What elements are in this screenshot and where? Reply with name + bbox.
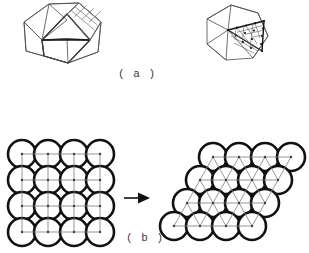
- lattice-node: [73, 153, 75, 155]
- lattice-node: [47, 205, 49, 207]
- lattice-node: [238, 156, 240, 158]
- lattice-node: [21, 153, 23, 155]
- panel-a-polyhedra: [0, 0, 309, 100]
- transformation-arrow: [124, 193, 150, 204]
- lattice-node: [212, 156, 214, 158]
- patterned-face-grid: [67, 3, 101, 40]
- lattice-node: [99, 205, 101, 207]
- panel-label-b: ( b ): [126, 232, 164, 244]
- lattice-node: [251, 179, 253, 181]
- lattice-node: [73, 231, 75, 233]
- lattice-node: [186, 202, 188, 204]
- lattice-node: [21, 179, 23, 181]
- lattice-node: [251, 225, 253, 227]
- icosahedron: [207, 5, 268, 60]
- lattice-node: [264, 156, 266, 158]
- hexagonal-close-packing: [160, 143, 305, 240]
- lattice-node: [47, 231, 49, 233]
- lattice-node: [99, 153, 101, 155]
- lattice-node: [290, 156, 292, 158]
- lattice-node: [212, 202, 214, 204]
- lattice-node: [238, 202, 240, 204]
- lattice-node: [21, 231, 23, 233]
- rhombic-polyhedron: [24, 3, 101, 63]
- lattice-node: [225, 179, 227, 181]
- lattice-node: [99, 179, 101, 181]
- lattice-node: [199, 225, 201, 227]
- lattice-node: [21, 205, 23, 207]
- lattice-node: [73, 205, 75, 207]
- lattice-node: [99, 231, 101, 233]
- lattice-node: [277, 179, 279, 181]
- panel-label-a: ( a ): [118, 68, 156, 80]
- lattice-node: [47, 153, 49, 155]
- lattice-node: [173, 225, 175, 227]
- figure-root: ( a ) ( b ): [0, 0, 309, 253]
- square-lattice-packing: [8, 140, 114, 246]
- lattice-node: [73, 179, 75, 181]
- lattice-node: [199, 179, 201, 181]
- lattice-node: [264, 202, 266, 204]
- lattice-node: [47, 179, 49, 181]
- lattice-node: [225, 225, 227, 227]
